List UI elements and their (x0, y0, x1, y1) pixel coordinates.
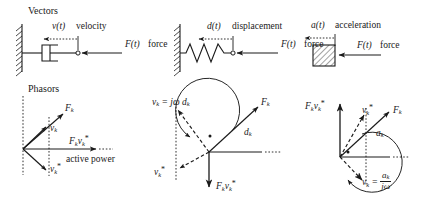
eq-rhs-subscript: k (187, 100, 190, 107)
accel-subscript: k (381, 131, 384, 138)
mass-phasor-conj-label: vk* (362, 104, 373, 116)
force-subscript: k (267, 100, 270, 107)
eq-equals: = (159, 97, 170, 107)
spring-diagram-art (174, 24, 278, 76)
damper-phasor-velocity-label: vk (50, 124, 57, 134)
mechanical-impedance-figure: Vectors Phasors v(t) velocity F(t) force… (0, 0, 431, 200)
mass-phasor-force-label: Fk (393, 106, 402, 116)
eq-rhs-symbol: jω d (170, 97, 186, 107)
damper-force-word: force (148, 40, 168, 50)
spring-phasor-power-label: Fkvk* (216, 180, 236, 192)
row-label-vectors: Vectors (28, 6, 58, 16)
damper-force-symbol: F(t) (125, 40, 140, 50)
conj-asterisk: * (57, 162, 61, 171)
eq-num-subscript: k (387, 173, 390, 180)
mass-force-symbol: F(t) (357, 41, 372, 51)
damper-phasor-force-label: Fk (65, 104, 74, 114)
eq-denominator: jω (380, 182, 391, 191)
spring-force-word: force (304, 40, 324, 50)
spring-phasor-equation: vk = jω dk (152, 98, 190, 108)
eq-equals: = (369, 177, 380, 187)
damper-phasor-conj-label: vk* (50, 163, 61, 175)
power-asterisk: * (85, 134, 89, 143)
active-power-caption: active power (66, 155, 115, 165)
conj-asterisk: * (369, 103, 373, 112)
conj-asterisk: * (161, 165, 165, 174)
damper-motion-word: velocity (76, 22, 107, 32)
spring-phasor-art (176, 78, 281, 187)
mass-phasor-accel-label: ak (376, 129, 384, 139)
spring-motion-word: displacement (232, 22, 282, 32)
power-asterisk: * (321, 99, 325, 108)
mass-motion-word: acceleration (335, 21, 381, 31)
damper-motion-symbol: v(t) (52, 22, 65, 32)
damper-phasor-power-label: Fkvk* (69, 135, 89, 147)
displacement-subscript: k (249, 130, 252, 137)
mass-motion-symbol: a(t) (311, 21, 325, 31)
mass-phasor-equation: vk = akjω (362, 171, 391, 192)
spring-phasor-force-label: Fk (261, 98, 270, 108)
spring-phasor-displacement-label: dk (244, 128, 252, 138)
spring-motion-symbol: d(t) (207, 22, 221, 32)
spring-phasor-conj-label: vk* (154, 166, 165, 178)
eq-fraction: akjω (380, 171, 391, 192)
power-asterisk: * (232, 179, 236, 188)
damper-diagram-art (16, 24, 122, 76)
velocity-subscript: k (54, 126, 57, 133)
mass-force-word: force (380, 41, 400, 51)
force-subscript: k (399, 108, 402, 115)
force-subscript: k (71, 106, 74, 113)
spring-force-symbol: F(t) (281, 40, 296, 50)
row-label-phasors: Phasors (28, 84, 59, 94)
mass-phasor-power-label: Fkvk* (305, 100, 325, 112)
